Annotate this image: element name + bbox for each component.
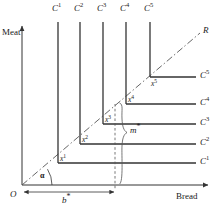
kink-sup-2: 2 — [85, 134, 88, 140]
leontief-indifference-diagram: Meat Bread O R α C1 C2 C3 C4 C5 C5 C4 C3… — [0, 0, 222, 213]
curve-right-sup-1: 1 — [206, 154, 209, 161]
curve-right-label-4: C4 — [200, 98, 209, 107]
indifference-curve-5 — [150, 22, 196, 77]
indifference-curve-4 — [126, 22, 196, 104]
meat-dimension-label: m* — [130, 126, 141, 135]
curve-right-label-5: C5 — [200, 71, 209, 80]
y-axis-label-meat: Meat — [2, 28, 21, 37]
curve-right-label-2: C2 — [200, 138, 209, 147]
curve-right-sup-3: 3 — [206, 115, 209, 122]
curve-top-sup-3: 3 — [103, 1, 106, 8]
kink-sup-4: 4 — [131, 94, 134, 100]
kink-label-1: x1 — [60, 155, 66, 163]
curve-right-sup-5: 5 — [206, 68, 209, 75]
curve-top-sup-2: 2 — [80, 1, 83, 8]
curve-right-label-1: C1 — [200, 157, 209, 166]
curve-right-label-3: C3 — [200, 118, 209, 127]
ray-label-R: R — [203, 26, 209, 35]
ray-line — [22, 33, 200, 185]
curve-top-label-4: C4 — [120, 4, 129, 13]
angle-label-alpha: α — [40, 172, 44, 180]
curve-top-sup-4: 4 — [126, 1, 129, 8]
kink-label-2: x2 — [82, 136, 88, 144]
curve-top-label-2: C2 — [74, 4, 83, 13]
indifference-curve-1 — [58, 22, 196, 163]
origin-label: O — [10, 190, 17, 199]
angle-alpha-arc — [48, 169, 53, 185]
curve-top-sup-1: 1 — [58, 1, 61, 8]
kink-sup-1: 1 — [63, 153, 66, 159]
expansion-ray-R — [22, 33, 200, 185]
curve-right-sup-4: 4 — [206, 95, 209, 102]
alpha-arc — [48, 169, 53, 185]
kink-label-4: x4 — [128, 96, 134, 104]
bread-dimension-label: b* — [62, 196, 71, 205]
curve-top-label-3: C3 — [97, 4, 106, 13]
curve-top-label-1: C1 — [52, 4, 61, 13]
kink-label-3: x3 — [105, 116, 111, 124]
kink-sup-3: 3 — [108, 114, 111, 120]
diagram-canvas — [0, 0, 222, 213]
x-axis-label-bread: Bread — [176, 192, 198, 201]
m-star-sup: * — [137, 122, 141, 131]
kink-label-5: x5 — [151, 80, 157, 88]
kink-sup-5: 5 — [154, 78, 157, 84]
curve-top-sup-5: 5 — [150, 1, 153, 8]
curve-right-sup-2: 2 — [206, 135, 209, 142]
b-star-sup: * — [67, 192, 71, 201]
curve-top-label-5: C5 — [144, 4, 153, 13]
